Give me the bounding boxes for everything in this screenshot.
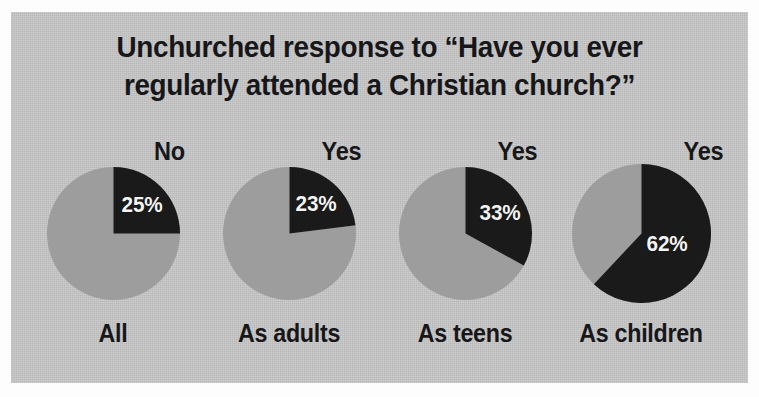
pie-chart-as-children: Yes 62% As children [553,138,729,373]
pie-chart-as-adults: Yes 23% As adults [201,138,377,373]
pie-value-label-as-adults: 23% [295,193,336,215]
pie-value-label-as-children: 62% [647,233,688,255]
pie-slice-label-all: No [154,138,185,164]
pie-category-label-all: All [31,320,195,347]
chart-title-line-1: Unchurched response to “Have you ever [37,28,722,66]
pie-chart-as-teens: Yes 33% As teens [377,138,553,373]
pie-disc-all: 25% [47,167,180,300]
pie-disc-as-teens: 33% [399,167,532,300]
pie-category-label-as-children: As children [559,320,723,347]
pie-disc-as-adults: 23% [223,167,356,300]
pie-chart-row: No 25% All Yes 23% [11,138,748,373]
chart-panel: Unchurched response to “Have you ever re… [11,12,748,383]
pie-disc-as-children: 62% [572,164,711,303]
pie-slice-label-as-teens: Yes [497,138,537,164]
pie-category-label-as-adults: As adults [207,320,371,347]
pie-svg-as-teens [399,167,532,300]
pie-value-label-as-teens: 33% [479,202,520,224]
figure-root: Unchurched response to “Have you ever re… [0,0,759,397]
pie-svg-as-adults [223,167,356,300]
pie-value-label-all: 25% [121,194,162,216]
pie-slice-label-as-children: Yes [683,138,723,164]
pie-category-label-as-teens: As teens [383,320,547,347]
chart-title-line-2: regularly attended a Christian church?” [37,66,722,104]
pie-svg-as-children [572,164,711,303]
pie-chart-all: No 25% All [25,138,201,373]
pie-svg-all [47,167,180,300]
chart-title: Unchurched response to “Have you ever re… [37,28,722,104]
pie-slice-label-as-adults: Yes [321,138,361,164]
